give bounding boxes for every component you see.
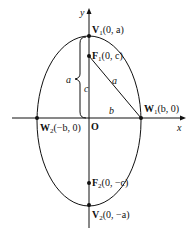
- focal-c-label: c: [84, 83, 89, 94]
- f2-label: F2(0, −c): [92, 177, 128, 190]
- brace-a: [75, 37, 86, 118]
- point-w1: [139, 116, 143, 120]
- point-w2: [35, 116, 39, 120]
- x-axis-arrow-icon: [180, 116, 186, 121]
- x-axis-label: x: [176, 122, 182, 133]
- point-f1: [87, 54, 91, 58]
- w2-label: W2(−b, 0): [40, 122, 81, 135]
- v2-label: V2(0, −a): [92, 209, 129, 222]
- point-v1: [87, 34, 91, 38]
- y-axis-arrow-icon: [87, 8, 92, 14]
- ellipse-svg: y x O V1(0, a) F1(0, c) W1(b, 0) W2(−b, …: [0, 0, 194, 237]
- point-v2: [87, 203, 91, 207]
- focus-to-covertex-line: [89, 56, 141, 118]
- v1-label: V1(0, a): [92, 24, 124, 37]
- semi-minor-b-label: b: [109, 105, 114, 116]
- ellipse-diagram: y x O V1(0, a) F1(0, c) W1(b, 0) W2(−b, …: [0, 0, 194, 237]
- f1-label: F1(0, c): [92, 50, 123, 63]
- hypotenuse-a-label: a: [112, 75, 117, 86]
- w1-label: W1(b, 0): [144, 103, 179, 116]
- y-axis-label: y: [79, 7, 85, 18]
- brace-a-label: a: [66, 74, 71, 85]
- point-f2: [87, 181, 91, 185]
- origin-label: O: [91, 121, 99, 132]
